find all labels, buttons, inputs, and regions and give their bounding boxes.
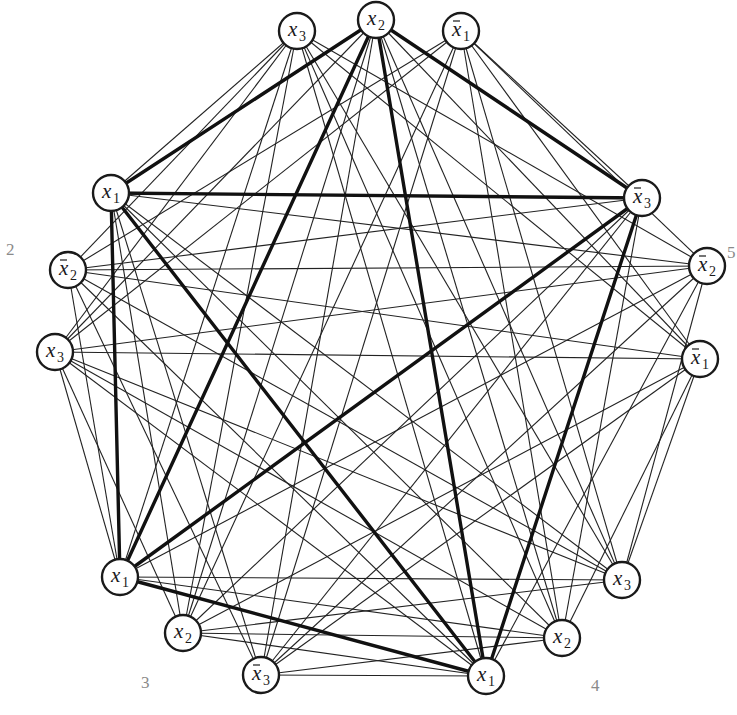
graph-edge: [183, 31, 297, 633]
group-label: 5: [727, 243, 736, 263]
literal-node: x1: [468, 658, 504, 694]
graph-edge: [261, 675, 486, 676]
graph-edge: [111, 31, 297, 193]
graph-edge: [622, 266, 707, 580]
node-subscript: 1: [113, 191, 120, 206]
node-subscript: 2: [185, 631, 192, 646]
graph-edge: [120, 266, 707, 577]
group-label: 3: [141, 673, 150, 693]
graph-edge: [68, 31, 297, 270]
node-subscript: 3: [263, 673, 270, 688]
graph-edge: [120, 31, 297, 577]
literal-node: x2: [689, 248, 725, 284]
graph-edge: [461, 31, 707, 266]
node-subscript: 2: [378, 18, 385, 33]
literal-node: x3: [243, 657, 279, 693]
graph-edge: [461, 31, 622, 580]
literal-node: x1: [93, 175, 129, 211]
node-subscript: 2: [709, 264, 716, 279]
literal-node: x1: [102, 559, 138, 595]
node-variable: x: [476, 662, 487, 686]
node-subscript: 2: [564, 636, 571, 651]
literal-node: x2: [358, 2, 394, 38]
graph-edge: [111, 193, 707, 266]
graph-edge: [68, 31, 461, 270]
clique-edge: [111, 193, 120, 577]
graph-edge: [55, 352, 700, 359]
graph-edge: [68, 270, 622, 580]
clique-edge: [486, 198, 642, 676]
clique-graph: x3x2x1x1x2x3x1x2x3x1x2x3x3x2x1: [0, 0, 737, 715]
group-label: 4: [591, 676, 600, 696]
graph-edge: [376, 20, 562, 638]
node-variable: x: [101, 179, 112, 203]
graph-edge: [183, 31, 461, 633]
literal-node: x1: [443, 13, 479, 49]
graph-edge: [622, 359, 700, 580]
graph-edge: [486, 266, 707, 676]
group-label: 2: [6, 240, 15, 260]
graph-edge: [55, 352, 562, 638]
clique-edge: [376, 20, 642, 198]
literal-node: x3: [37, 334, 73, 370]
graph-edge: [183, 633, 486, 676]
literal-node: x2: [50, 252, 86, 288]
graph-edge: [120, 577, 622, 580]
node-subscript: 3: [57, 350, 64, 365]
literal-node: x3: [624, 180, 660, 216]
node-variable: x: [287, 17, 298, 41]
literal-node: x3: [279, 13, 315, 49]
node-subscript: 3: [299, 29, 306, 44]
literal-node: x1: [682, 341, 718, 377]
node-variable: x: [110, 563, 121, 587]
node-subscript: 2: [70, 268, 77, 283]
node-subscript: 3: [644, 196, 651, 211]
literal-node: x3: [604, 562, 640, 598]
graph-edge: [68, 270, 486, 676]
node-variable: x: [612, 566, 623, 590]
node-subscript: 1: [488, 674, 495, 689]
graph-edge: [55, 31, 297, 352]
node-subscript: 1: [702, 357, 709, 372]
node-subscript: 3: [624, 578, 631, 593]
node-subscript: 1: [463, 29, 470, 44]
literal-node: x2: [165, 615, 201, 651]
graph-edge: [461, 31, 642, 198]
graph-edge: [297, 31, 707, 266]
node-variable: x: [366, 6, 377, 30]
node-subscript: 1: [122, 575, 129, 590]
node-variable: x: [173, 619, 184, 643]
graph-edge: [183, 633, 562, 638]
graph-edge: [111, 193, 562, 638]
graph-edge: [55, 266, 707, 352]
literal-node: x2: [544, 620, 580, 656]
clique-edge: [120, 198, 642, 577]
node-variable: x: [45, 338, 56, 362]
node-variable: x: [552, 624, 563, 648]
